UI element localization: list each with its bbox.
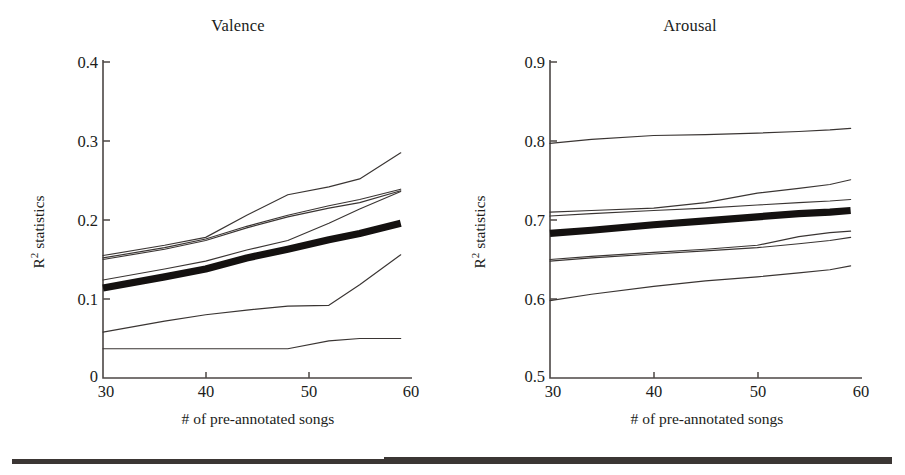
arousal-x-ticks (654, 372, 758, 378)
valence-y-axis-title: R2 statistics (28, 195, 47, 268)
arousal-ytick-4: 0.9 (524, 53, 545, 72)
arousal-curve-rising-high (550, 180, 851, 212)
arousal-xtick-3: 60 (853, 382, 870, 401)
valence-y-ticks (103, 62, 110, 299)
arousal-x-tick-labels: 30 40 50 60 (545, 382, 870, 401)
valence-curve-mean-bold (103, 223, 401, 288)
valence-y-tick-labels: 0.4 0.3 0.2 0.1 0 (77, 53, 98, 386)
arousal-ytick-0: 0.5 (524, 367, 545, 386)
valence-series-group (103, 153, 401, 349)
arousal-plot-canvas: R2 statistics 0.9 0.8 0.7 0.6 0.5 (447, 0, 905, 445)
valence-ylabel-rest: statistics (30, 195, 47, 252)
arousal-ylabel-base: R (471, 258, 488, 269)
arousal-xtick-1: 40 (646, 382, 663, 401)
bottom-rule-left (12, 459, 384, 464)
arousal-ytick-2: 0.7 (524, 211, 545, 230)
bottom-rule-right (384, 457, 892, 464)
arousal-y-axis-title: R2 statistics (469, 195, 488, 268)
valence-curve-top (103, 153, 401, 256)
arousal-y-tick-labels: 0.9 0.8 0.7 0.6 0.5 (524, 53, 545, 386)
valence-ytick-1: 0.1 (77, 290, 98, 309)
arousal-x-axis-title: # of pre-annotated songs (631, 410, 784, 427)
panel-arousal: Arousal R2 statistics 0.9 0.8 0.7 0.6 0.… (447, 0, 905, 445)
arousal-curve-bottom-rising (550, 266, 851, 301)
arousal-xtick-0: 30 (545, 382, 562, 401)
svg-text:R2 statistics: R2 statistics (28, 195, 47, 268)
valence-plot-canvas: R2 statistics 0.4 0.3 0.2 0.1 0 (0, 0, 460, 445)
valence-curve-bottom-flat (103, 339, 401, 349)
valence-ylabel-base: R (30, 258, 47, 269)
valence-xtick-2: 50 (301, 382, 318, 401)
arousal-ylabel-rest: statistics (471, 195, 488, 252)
svg-text:R2 statistics: R2 statistics (469, 195, 488, 268)
arousal-ytick-1: 0.6 (524, 290, 545, 309)
arousal-ytick-3: 0.8 (524, 132, 545, 151)
valence-axis-lines (103, 60, 412, 378)
valence-ytick-0: 0 (90, 367, 98, 386)
arousal-xtick-2: 50 (750, 382, 767, 401)
valence-xtick-0: 30 (98, 382, 115, 401)
valence-xtick-1: 40 (198, 382, 215, 401)
arousal-curve-mid-upper (550, 231, 851, 259)
panel-valence: Valence R2 statistics 0.4 0.3 0.2 (0, 0, 460, 445)
valence-x-ticks (206, 372, 309, 378)
arousal-y-ticks (550, 62, 557, 299)
valence-ytick-2: 0.2 (77, 211, 98, 230)
arousal-series-group (550, 128, 851, 300)
valence-x-axis-title: # of pre-annotated songs (182, 410, 335, 427)
valence-ytick-4: 0.4 (77, 53, 98, 72)
valence-curve-lower-rising (103, 255, 401, 332)
arousal-curve-top (550, 128, 851, 143)
valence-ytick-3: 0.3 (77, 132, 98, 151)
figure-two-panel-r2-plots: Valence R2 statistics 0.4 0.3 0.2 (0, 0, 905, 475)
valence-x-tick-labels: 30 40 50 60 (98, 382, 420, 401)
valence-xtick-3: 60 (403, 382, 420, 401)
